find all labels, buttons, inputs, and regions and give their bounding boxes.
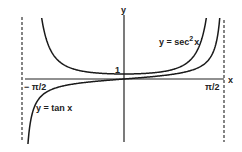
sec2-label-exponent: 2	[189, 35, 193, 42]
x-axis-label: x	[228, 75, 233, 85]
sec2-curve-label: y = sec2x	[159, 35, 199, 47]
sec2-label-base: y = sec	[159, 37, 189, 47]
tick-label-pi-half: π/2	[205, 82, 219, 92]
y-axis-label: y	[121, 5, 126, 15]
tick-label-one: 1	[115, 65, 120, 75]
sec2-label-tail: x	[194, 37, 199, 47]
tan-curve-label: y = tan x	[36, 103, 72, 113]
tan-sec2-diagram: y x 1 − π/2 π/2 y = tan x y = sec2x	[0, 0, 242, 152]
tick-label-neg-pi-half: − π/2	[24, 82, 46, 92]
